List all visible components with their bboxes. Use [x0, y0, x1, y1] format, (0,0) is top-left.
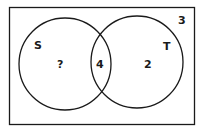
- set-s-label: S: [34, 39, 42, 52]
- set-t-circle: [91, 16, 183, 108]
- outside-value: 3: [178, 14, 186, 27]
- intersection-value: 4: [96, 58, 104, 71]
- venn-diagram: S ? 4 2 T 3: [0, 0, 206, 131]
- s-only-value: ?: [57, 58, 63, 71]
- set-t-label: T: [163, 40, 171, 53]
- t-only-value: 2: [144, 58, 152, 71]
